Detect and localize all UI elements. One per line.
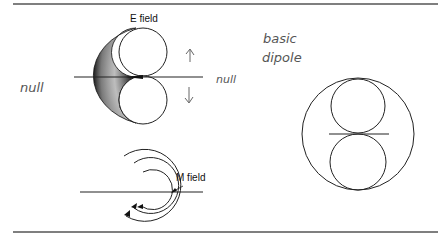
null-left-annotation: null [20, 80, 44, 95]
basic-annotation: basic [263, 31, 297, 46]
dipole-bottom-lobe [330, 134, 386, 190]
arrow-down-icon [185, 87, 193, 103]
m-field-arrowhead-1 [137, 204, 143, 209]
null-right-annotation: null [216, 73, 236, 86]
dipole-annotation: dipole [262, 50, 302, 65]
dipole-diagram [0, 0, 438, 235]
e-field-label: E field [130, 13, 158, 24]
e-field-bottom-lobe [119, 76, 167, 124]
dipole-top-lobe [331, 79, 385, 133]
m-field-loop-inner [141, 170, 172, 210]
m-field-arrowhead-2 [131, 203, 137, 209]
m-field-label: M field [176, 172, 205, 183]
arrow-up-icon [186, 49, 194, 62]
e-field-top-lobe [119, 28, 167, 76]
m-field-arrowhead-3 [124, 210, 130, 217]
